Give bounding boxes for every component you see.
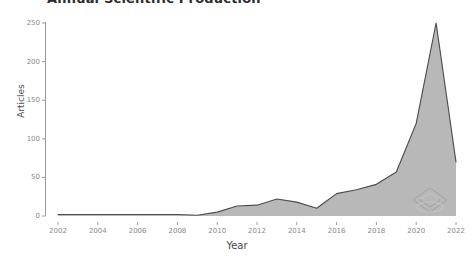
y-tick-label: 100 [14,135,40,143]
area-series-fill [58,23,456,216]
x-tick-label: 2004 [89,227,107,235]
x-tick-label: 2018 [367,227,385,235]
y-tick-label: 0 [14,212,40,220]
x-tick-label: 2012 [248,227,266,235]
x-tick-label: 2016 [328,227,346,235]
plot-area [0,0,474,262]
chart-svg [0,0,474,262]
y-tick-label: 250 [14,19,40,27]
y-tick-label: 150 [14,96,40,104]
y-axis-ticks [42,23,46,216]
x-tick-label: 2022 [447,227,465,235]
x-tick-label: 2006 [129,227,147,235]
x-tick-label: 2020 [407,227,425,235]
x-tick-label: 2014 [288,227,306,235]
x-tick-label: 2008 [168,227,186,235]
x-tick-label: 2010 [208,227,226,235]
x-tick-label: 2002 [49,227,67,235]
y-tick-label: 50 [14,173,40,181]
x-axis-ticks [58,222,456,225]
y-tick-label: 200 [14,58,40,66]
chart-container: Annual Scientific Production Articles Ye… [0,0,474,262]
